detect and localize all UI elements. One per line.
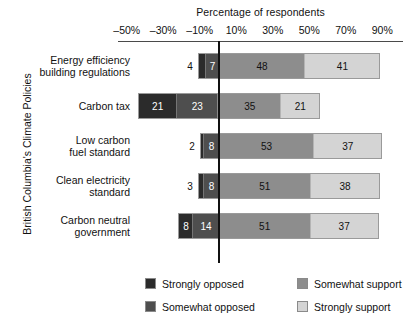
bar-value-label-outside: 3 xyxy=(176,173,196,199)
zero-reference-line xyxy=(218,41,220,263)
bar-segment: 8 xyxy=(204,134,218,158)
plot-area: Energy efficiencybuilding regulations474… xyxy=(0,46,415,264)
category-label-line: Low carbon xyxy=(76,134,130,147)
category-label-line: Carbon tax xyxy=(79,100,130,113)
chart-row: Carbon neutralgovernment8145137 xyxy=(0,206,415,246)
bar-segment: 51 xyxy=(219,174,311,198)
legend-item[interactable]: Strongly support xyxy=(297,301,415,313)
bar-value-label: 14 xyxy=(200,221,211,232)
legend-label: Somewhat support xyxy=(314,278,402,290)
legend-swatch-icon xyxy=(297,278,308,289)
x-axis-tick-labels: –50%–30%–10%10%30%50%70%90% xyxy=(118,24,403,40)
stacked-bar: 85337 xyxy=(200,133,383,159)
bar-segment: 41 xyxy=(305,54,379,78)
bar-value-label: 37 xyxy=(339,221,350,232)
bar-segment xyxy=(199,54,206,78)
category-label-line: standard xyxy=(89,186,130,199)
bar-segment: 8 xyxy=(204,174,218,198)
x-axis-tick-label: –10% xyxy=(186,24,213,36)
x-axis-rule xyxy=(118,41,403,42)
bar-value-label: 21 xyxy=(295,101,306,112)
bar-segment: 37 xyxy=(314,134,381,158)
x-axis-tick-label: 90% xyxy=(372,24,393,36)
bar-segment: 37 xyxy=(311,214,378,238)
stacked-bar: 8145137 xyxy=(178,213,379,239)
x-axis-tick-label: 70% xyxy=(335,24,356,36)
category-label-line: Energy efficiency xyxy=(50,54,130,67)
bar-segment: 48 xyxy=(219,54,306,78)
bar-segment: 8 xyxy=(179,214,193,238)
category-label-line: Clean electricity xyxy=(56,174,130,187)
legend-label: Strongly opposed xyxy=(162,278,244,290)
y-axis-category-label: Low carbonfuel standard xyxy=(8,126,130,166)
legend-swatch-icon xyxy=(145,278,156,289)
bar-value-label: 48 xyxy=(257,61,268,72)
bar-segment: 21 xyxy=(281,94,319,118)
bar-value-label: 38 xyxy=(340,181,351,192)
bar-value-label: 8 xyxy=(209,141,215,152)
category-label-line: building regulations xyxy=(40,66,130,79)
x-axis-tick-label: –50% xyxy=(113,24,140,36)
y-axis-category-label: Carbon neutralgovernment xyxy=(8,206,130,246)
legend-swatch-icon xyxy=(145,301,156,312)
chart-row: Clean electricitystandard385138 xyxy=(0,166,415,206)
y-axis-category-label: Energy efficiencybuilding regulations xyxy=(8,46,130,86)
bar-value-label-outside: 2 xyxy=(178,133,198,159)
category-label-line: Carbon neutral xyxy=(61,214,130,227)
chart-row: Carbon tax21233521 xyxy=(0,86,415,126)
x-axis-tick-label: 30% xyxy=(262,24,283,36)
bar-value-label: 21 xyxy=(152,101,163,112)
legend-item[interactable]: Somewhat support xyxy=(297,278,415,290)
bar-value-label: 7 xyxy=(210,61,216,72)
bar-segment: 38 xyxy=(311,174,380,198)
stacked-bar: 85138 xyxy=(198,173,381,199)
chart-row: Energy efficiencybuilding regulations474… xyxy=(0,46,415,86)
category-label-line: government xyxy=(75,226,130,239)
bar-value-label-outside: 4 xyxy=(176,53,196,79)
bar-value-label: 37 xyxy=(342,141,353,152)
legend-swatch-icon xyxy=(297,301,308,312)
diverging-stacked-bar-chart: Percentage of respondents –50%–30%–10%10… xyxy=(0,0,415,325)
bar-value-label: 8 xyxy=(183,221,189,232)
bar-value-label: 8 xyxy=(209,181,215,192)
legend: Strongly opposedSomewhat supportSomewhat… xyxy=(145,272,395,318)
stacked-bar: 74841 xyxy=(198,53,381,79)
bar-value-label: 23 xyxy=(192,101,203,112)
bar-segment: 53 xyxy=(219,134,315,158)
legend-label: Somewhat opposed xyxy=(162,301,255,313)
x-axis-title: Percentage of respondents xyxy=(118,6,403,18)
bar-segment: 23 xyxy=(177,94,219,118)
x-axis-tick-label: –30% xyxy=(150,24,177,36)
category-label-line: fuel standard xyxy=(69,146,130,159)
bar-value-label: 51 xyxy=(259,221,270,232)
legend-item[interactable]: Somewhat opposed xyxy=(145,301,297,313)
y-axis-category-label: Carbon tax xyxy=(8,86,130,126)
y-axis-category-label: Clean electricitystandard xyxy=(8,166,130,206)
bar-value-label: 35 xyxy=(244,101,255,112)
bar-segment: 35 xyxy=(218,94,281,118)
bar-value-label: 41 xyxy=(337,61,348,72)
x-axis-tick-label: 50% xyxy=(299,24,320,36)
legend-label: Strongly support xyxy=(314,301,390,313)
legend-item[interactable]: Strongly opposed xyxy=(145,278,297,290)
bar-segment: 14 xyxy=(193,214,218,238)
bar-value-label: 51 xyxy=(259,181,270,192)
bar-segment: 51 xyxy=(219,214,311,238)
x-axis-tick-label: 10% xyxy=(226,24,247,36)
stacked-bar: 21233521 xyxy=(138,93,321,119)
chart-row: Low carbonfuel standard285337 xyxy=(0,126,415,166)
bar-value-label: 53 xyxy=(261,141,272,152)
bar-segment: 21 xyxy=(139,94,177,118)
bar-segment: 7 xyxy=(206,54,219,78)
